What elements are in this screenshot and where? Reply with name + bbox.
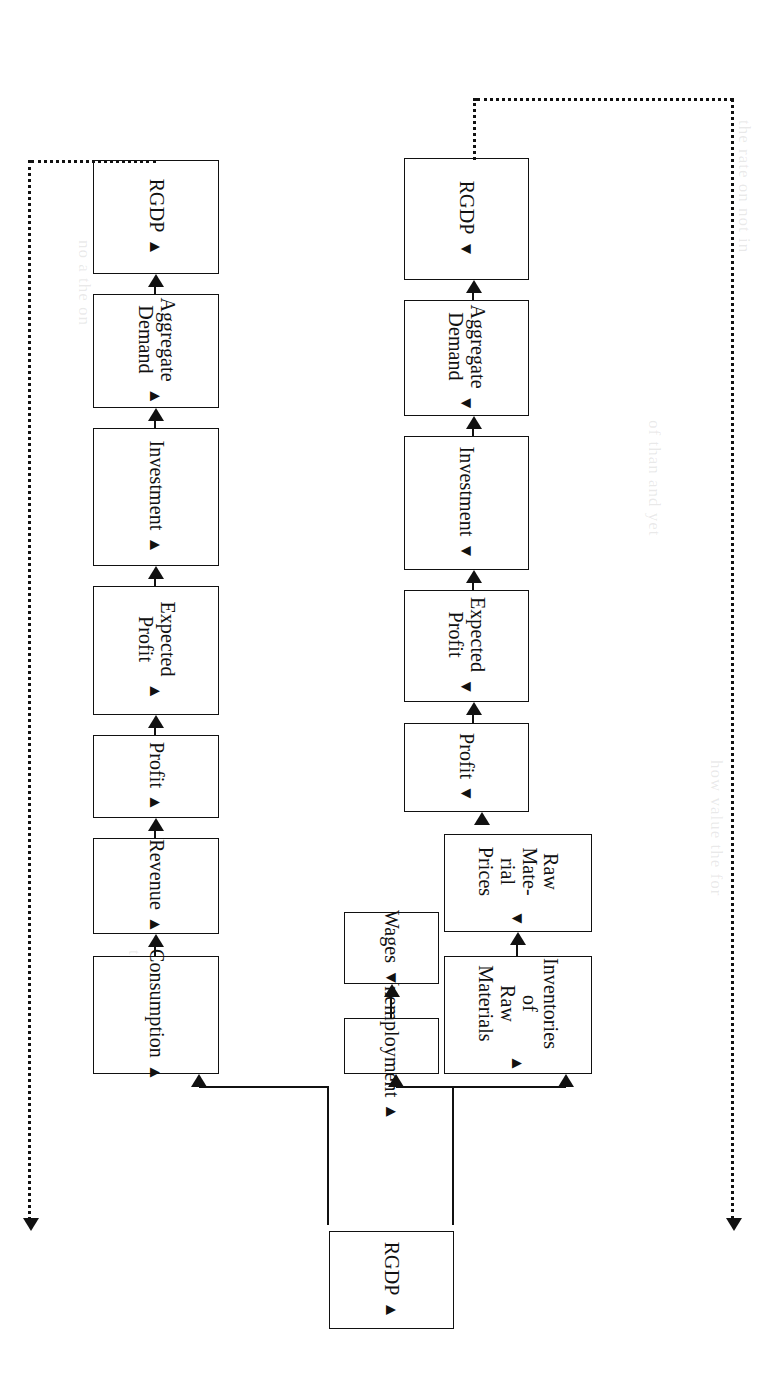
node-label: Revenue [145, 839, 167, 910]
node-inventories-raw-materials[interactable]: Inventories of Raw Materials▲ [444, 956, 592, 1074]
direction-mark: ▲ [383, 1103, 400, 1120]
node-left-aggregate-demand[interactable]: Aggregate Demand▼ [404, 300, 529, 416]
node-label: Raw Mate- rial Prices [475, 839, 561, 904]
arrow-right-profit-to-expected [148, 715, 164, 728]
node-left-expected-profit[interactable]: Expected Profit▼ [404, 590, 529, 702]
direction-mark: ▼ [458, 785, 475, 802]
node-label: Aggregate Demand [134, 297, 177, 381]
arrow-to-inventories [558, 1074, 574, 1087]
arrow-right-expected-to-investment [148, 566, 164, 579]
node-right-aggregate-demand[interactable]: Aggregate Demand▲ [93, 294, 219, 408]
bus-expansionary-horizontal [327, 1086, 329, 1225]
arrow-into-left-profit [474, 812, 490, 825]
direction-mark: ▼ [458, 240, 475, 257]
direction-mark: ▲ [148, 683, 165, 700]
node-right-investment[interactable]: Investment▲ [93, 428, 219, 566]
link-unemployment-wages [390, 996, 392, 1018]
node-right-rgdp[interactable]: RGDP▲ [93, 160, 219, 274]
arrow-feedback-right-into-root-side [23, 1218, 39, 1231]
feedback-right-v [31, 160, 156, 163]
node-root-rgdp[interactable]: RGDP▲ [329, 1231, 454, 1329]
ghost-text: of than and yet [644, 420, 664, 537]
direction-mark: ▼ [510, 910, 527, 927]
arrow-to-consumption [191, 1074, 207, 1087]
flowchart-canvas: the rate on not in of than and yet how v… [0, 0, 784, 1391]
arrow-inventories-to-prices [510, 932, 526, 945]
node-label: Inventories of Raw Materials [475, 958, 561, 1049]
node-label: Expected Profit [134, 601, 177, 676]
link-revenue-profit [154, 830, 156, 838]
node-label: Profit [456, 733, 478, 779]
link-left-expected-investment [472, 582, 474, 590]
node-label: RGDP [456, 181, 478, 235]
node-consumption[interactable]: Consumption▲ [93, 956, 219, 1074]
node-label: Profit [145, 742, 167, 788]
feedback-left-seg-v [476, 98, 734, 101]
arrow-left-ad-to-rgdp [466, 280, 482, 293]
arrow-right-investment-to-ad [148, 408, 164, 421]
arrow-left-profit-to-expected [466, 702, 482, 715]
arrow-revenue-to-profit [148, 818, 164, 831]
arrow-right-ad-to-rgdp [148, 274, 164, 287]
node-unemployment[interactable]: Unemployment▲ [344, 1018, 439, 1074]
node-label: Aggregate Demand [445, 304, 488, 388]
node-right-profit[interactable]: Profit▲ [93, 735, 219, 818]
ghost-text: how value the for [706, 760, 726, 896]
node-label: Investment [456, 447, 478, 537]
node-wages[interactable]: Wages▼ [344, 912, 439, 984]
direction-mark: ▼ [458, 395, 475, 412]
node-label: Expected Profit [445, 597, 488, 672]
link-right-investment-ad [154, 420, 156, 428]
ghost-text: the rate on not in [734, 120, 754, 253]
node-left-profit[interactable]: Profit▼ [404, 723, 529, 812]
direction-mark: ▲ [148, 916, 165, 933]
link-left-profit-expected [472, 714, 474, 723]
direction-mark: ▼ [458, 542, 475, 559]
direction-mark: ▼ [383, 969, 400, 986]
direction-mark: ▲ [148, 238, 165, 255]
direction-mark: ▲ [510, 1055, 527, 1072]
node-label: Wages [381, 910, 403, 963]
link-inventories-prices [516, 944, 518, 956]
feedback-right-h-bottom [28, 160, 31, 1220]
direction-mark: ▼ [458, 678, 475, 695]
node-left-rgdp[interactable]: RGDP▼ [404, 158, 529, 280]
direction-mark: ▲ [383, 1301, 400, 1318]
link-left-investment-ad [472, 428, 474, 436]
bus-contractionary-horizontal [452, 1086, 454, 1225]
direction-mark: ▲ [148, 1064, 165, 1081]
direction-mark: ▲ [148, 536, 165, 553]
node-left-investment[interactable]: Investment▼ [404, 436, 529, 570]
node-label: RGDP [381, 1242, 403, 1296]
arrow-left-expected-to-investment [466, 570, 482, 583]
bus-expansionary-drop [199, 1086, 329, 1088]
link-left-ad-rgdp [472, 292, 474, 300]
node-revenue[interactable]: Revenue▲ [93, 838, 219, 934]
arrow-left-investment-to-ad [466, 416, 482, 429]
bus-contractionary-drop-b [454, 1086, 566, 1088]
link-right-ad-rgdp [154, 286, 156, 294]
bus-contractionary-drop-a [396, 1086, 454, 1088]
node-label: Consumption [145, 949, 167, 1058]
node-raw-material-prices[interactable]: Raw Mate- rial Prices▼ [444, 834, 592, 932]
link-right-expected-investment [154, 578, 156, 586]
direction-mark: ▲ [148, 794, 165, 811]
link-consumption-revenue [154, 946, 156, 956]
direction-mark: ▲ [148, 388, 165, 405]
feedback-left-seg-h2 [731, 98, 734, 1220]
node-label: RGDP [145, 179, 167, 233]
ghost-text: no a the on [74, 240, 94, 326]
node-label: Investment [145, 441, 167, 531]
feedback-left-seg-h1 [473, 98, 476, 160]
arrow-consumption-to-revenue [148, 934, 164, 947]
link-right-profit-expected [154, 727, 156, 735]
arrow-feedback-left-into-root [726, 1218, 742, 1231]
node-right-expected-profit[interactable]: Expected Profit▲ [93, 586, 219, 715]
